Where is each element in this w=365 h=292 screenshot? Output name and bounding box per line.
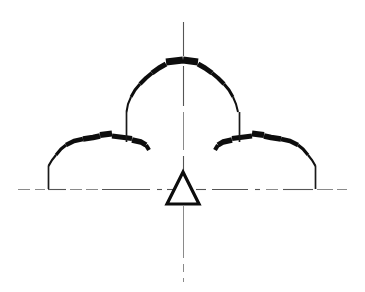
left-arch-right-haunch [112,136,132,139]
left-arch-crown-approach [83,136,100,139]
left-arch-crown [100,134,112,136]
page-background [0,0,365,292]
dome-apex-left [166,60,183,62]
technical-drawing-canvas: Symmetric arched structure cross-section… [0,0,365,292]
right-arch-crown-approach [264,136,281,139]
right-arch-left-haunch [232,136,252,139]
right-arch-terminal [215,145,218,150]
drawing-svg [0,0,365,292]
left-arch-terminal [146,145,149,150]
right-arch-crown [252,134,264,136]
dome-apex-right [183,60,198,62]
